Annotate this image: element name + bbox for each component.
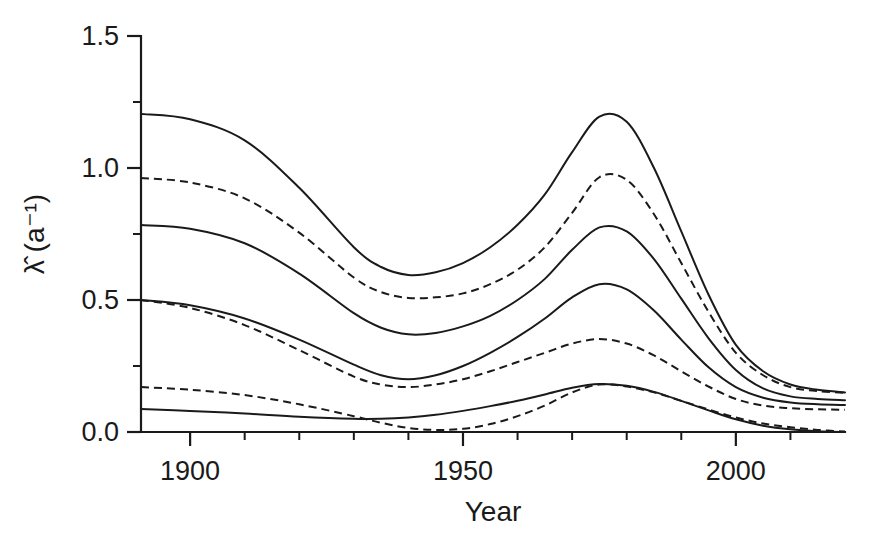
chart-series-line: [141, 384, 845, 431]
chart-series-line: [141, 174, 845, 393]
x-tick-label: 2000: [706, 456, 766, 486]
y-axis-tick-labels: 0.00.51.01.5: [81, 21, 119, 447]
x-axis-title: Year: [465, 496, 522, 527]
y-axis-title-text: λ̂ (a⁻¹): [19, 194, 50, 274]
x-axis-ticks: [190, 432, 790, 446]
chart-plot-area: 0.00.51.01.5 190019502000 Year λ̂ (a⁻¹): [0, 0, 878, 549]
chart-series-line: [141, 300, 845, 410]
y-tick-label: 0.5: [81, 285, 119, 315]
chart-figure: 0.00.51.01.5 190019502000 Year λ̂ (a⁻¹): [0, 0, 878, 549]
chart-series-line: [141, 284, 845, 405]
chart-series-line: [141, 225, 845, 400]
y-tick-label: 1.5: [81, 21, 119, 51]
y-tick-label: 0.0: [81, 417, 119, 447]
y-axis-title: λ̂ (a⁻¹): [19, 194, 50, 274]
chart-series-line: [141, 384, 845, 432]
x-axis-tick-labels: 190019502000: [160, 456, 766, 486]
chart-series-group: [141, 114, 845, 432]
x-tick-label: 1950: [433, 456, 493, 486]
y-axis-ticks: [127, 36, 141, 432]
y-tick-label: 1.0: [81, 153, 119, 183]
x-tick-label: 1900: [160, 456, 220, 486]
